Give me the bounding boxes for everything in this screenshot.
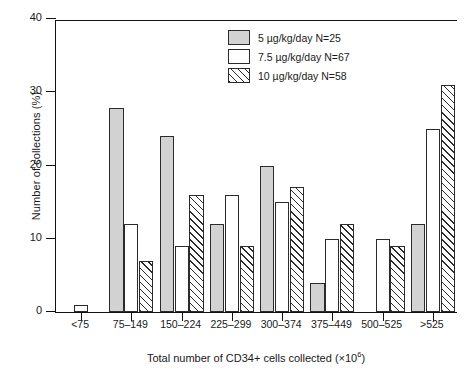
legend-item: 5 µg/kg/day N=25 — [228, 28, 350, 47]
y-axis-tick-label: 0 — [36, 304, 42, 316]
bar — [74, 305, 88, 312]
bar — [426, 129, 440, 312]
bar — [109, 108, 123, 312]
legend-item: 7.5 µg/kg/day N=67 — [228, 47, 350, 66]
bar — [376, 239, 390, 312]
x-axis-category-label: <75 — [71, 318, 89, 330]
x-axis-title-tail: ) — [361, 352, 365, 364]
x-axis-title-main: Total number of CD34+ cells collected (×… — [147, 352, 357, 364]
x-axis-title: Total number of CD34+ cells collected (×… — [55, 350, 457, 364]
legend-label: 10 µg/kg/day N=58 — [258, 70, 347, 82]
bar — [290, 187, 304, 312]
legend-swatch-hatch — [228, 68, 250, 83]
legend-label: 5 µg/kg/day N=25 — [258, 32, 341, 44]
bar — [390, 246, 404, 312]
bar — [210, 224, 224, 312]
x-axis-category-label: 150–224 — [160, 318, 201, 330]
y-axis-tick-label: 30 — [30, 84, 42, 96]
bar — [225, 195, 239, 312]
bar — [160, 136, 174, 312]
y-axis-tick: 30 — [46, 91, 56, 92]
legend-swatch-white — [228, 49, 250, 64]
y-axis-tick-label: 40 — [30, 11, 42, 23]
y-axis-tick: 20 — [46, 165, 56, 166]
bar — [340, 224, 354, 312]
y-axis-tick-label: 20 — [30, 158, 42, 170]
bar — [260, 166, 274, 313]
y-axis-tick: 40 — [46, 18, 56, 19]
bar — [175, 246, 189, 312]
bar — [124, 224, 138, 312]
x-axis-category-label: 225–299 — [210, 318, 251, 330]
x-axis-category-label: 500–525 — [361, 318, 402, 330]
x-axis-category-label: 300–374 — [261, 318, 302, 330]
bar — [275, 202, 289, 312]
legend-label: 7.5 µg/kg/day N=67 — [258, 51, 350, 63]
y-axis-tick: 10 — [46, 238, 56, 239]
legend: 5 µg/kg/day N=257.5 µg/kg/day N=6710 µg/… — [228, 28, 350, 85]
chart-figure: Number of collections (%) 010203040 5 µg… — [0, 0, 470, 372]
bar — [441, 85, 455, 312]
y-axis-tick-label: 10 — [30, 231, 42, 243]
bar — [139, 261, 153, 312]
bar — [411, 224, 425, 312]
bar — [240, 246, 254, 312]
y-axis-tick: 0 — [46, 311, 56, 312]
bar — [189, 195, 203, 312]
x-axis-category-label: 75–149 — [113, 318, 148, 330]
bar — [310, 283, 324, 312]
bar — [325, 239, 339, 312]
x-axis-category-label: >525 — [420, 318, 444, 330]
x-axis-category-label: 375–449 — [311, 318, 352, 330]
legend-item: 10 µg/kg/day N=58 — [228, 66, 350, 85]
legend-swatch-gray — [228, 30, 250, 45]
